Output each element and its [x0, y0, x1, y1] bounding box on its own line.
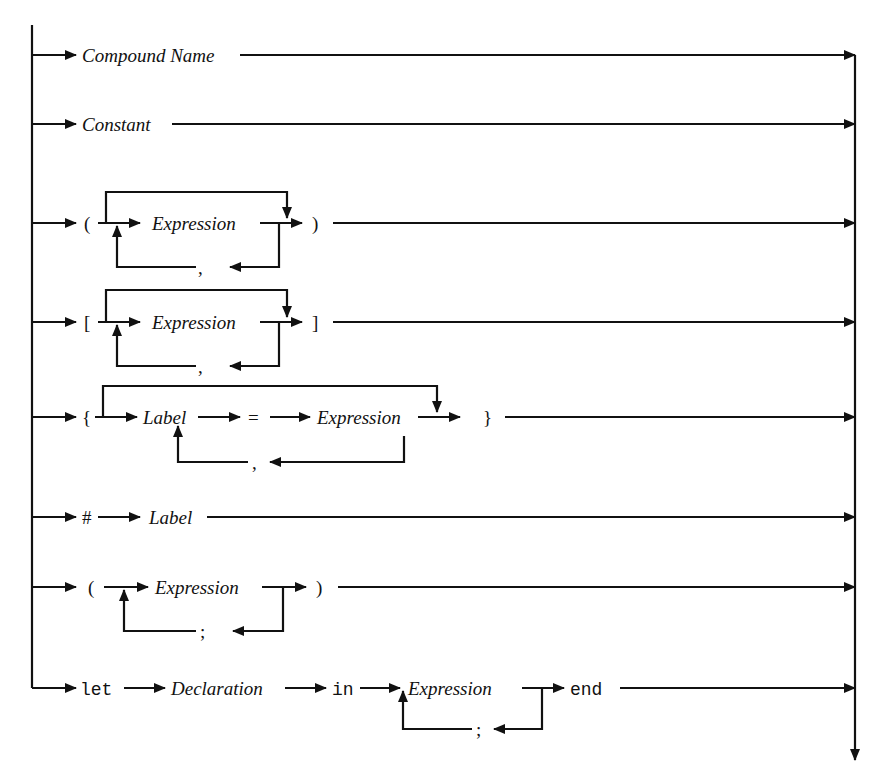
terminal-rbracket: ] — [312, 312, 318, 333]
terminal-lbracket: [ — [84, 312, 90, 333]
separator-comma: , — [252, 452, 257, 473]
syntax-diagram: Compound Name Constant ( Expression , ) … — [0, 0, 875, 766]
separator-semicolon: ; — [476, 719, 481, 740]
terminal-rbrace: } — [483, 407, 492, 428]
keyword-in: in — [332, 680, 354, 700]
row-selector: # Label — [32, 507, 855, 528]
nonterminal-expression: Expression — [316, 407, 401, 428]
nonterminal-expression: Expression — [154, 577, 239, 598]
terminal-hash: # — [82, 507, 92, 528]
terminal-lparen: ( — [88, 577, 94, 599]
row-constant: Constant — [32, 114, 855, 135]
keyword-let: let — [80, 680, 112, 700]
row-list: [ Expression , ] — [32, 290, 855, 377]
nonterminal-expression: Expression — [151, 213, 236, 234]
nonterminal-label: Label — [148, 507, 192, 528]
nonterminal-compound-name: Compound Name — [82, 45, 214, 66]
row-let: let Declaration in Expression ; end — [32, 678, 855, 740]
nonterminal-expression: Expression — [407, 678, 492, 699]
keyword-end: end — [570, 680, 602, 700]
terminal-rparen: ) — [316, 577, 322, 599]
nonterminal-label: Label — [142, 407, 186, 428]
row-compound-name: Compound Name — [32, 45, 855, 66]
terminal-lbrace: { — [82, 407, 91, 428]
separator-semicolon: ; — [200, 621, 205, 642]
nonterminal-declaration: Declaration — [170, 678, 263, 699]
row-record: { Label = Expression , } — [32, 386, 855, 473]
terminal-lparen: ( — [84, 213, 90, 235]
separator-comma: , — [198, 257, 203, 278]
row-sequence: ( Expression ; ) — [32, 577, 855, 642]
row-tuple: ( Expression , ) — [32, 192, 855, 278]
nonterminal-expression: Expression — [151, 312, 236, 333]
terminal-rparen: ) — [312, 213, 318, 235]
terminal-equals: = — [248, 407, 259, 428]
nonterminal-constant: Constant — [82, 114, 151, 135]
separator-comma: , — [198, 356, 203, 377]
